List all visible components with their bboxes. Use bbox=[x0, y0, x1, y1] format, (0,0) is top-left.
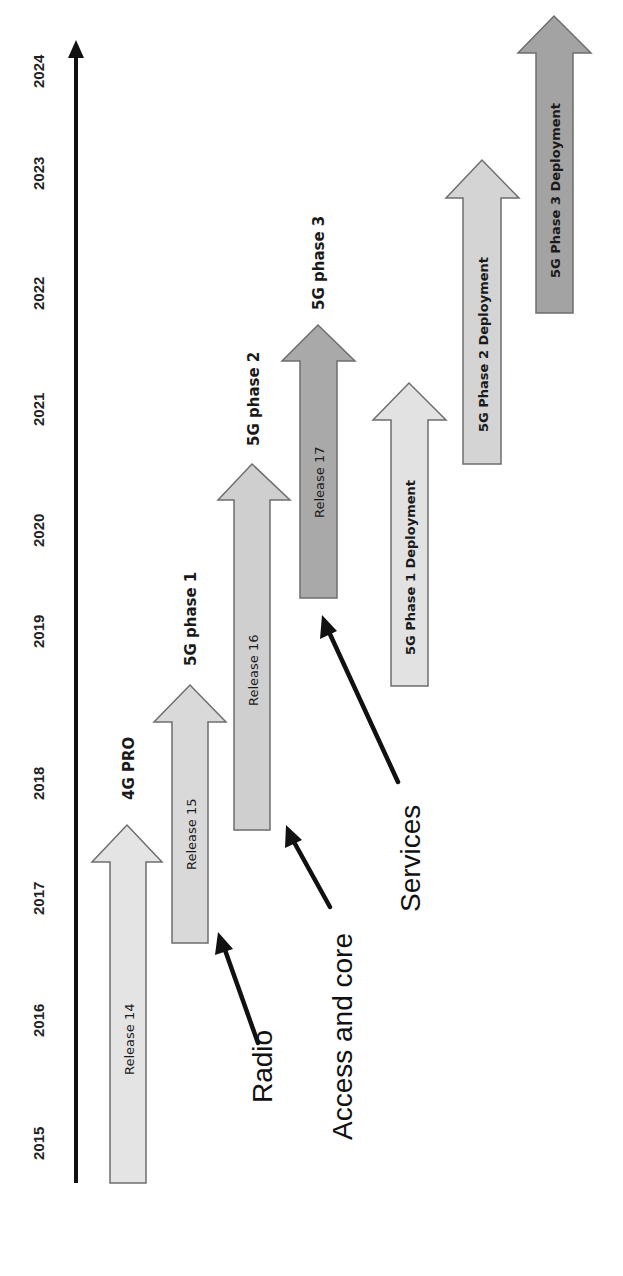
deployment-phase-3-label: 5G Phase 3 Deployment bbox=[548, 103, 563, 278]
year-label: 2021 bbox=[30, 393, 47, 426]
deployment-phase-2-label: 5G Phase 2 Deployment bbox=[476, 257, 491, 432]
release-14-label: Release 14 bbox=[122, 1004, 137, 1075]
callout-access-core-label: Access and core bbox=[327, 933, 358, 1140]
release-16-arrow: Release 16 5G phase 2 bbox=[218, 352, 290, 830]
timeline-diagram: 2015 2016 2017 2018 2019 2020 2021 2022 … bbox=[0, 0, 623, 1276]
release-17-label: Release 17 bbox=[312, 447, 327, 518]
phase-label-5g-phase-1: 5G phase 1 bbox=[182, 572, 200, 666]
year-label: 2022 bbox=[30, 277, 47, 310]
services-pointer-line bbox=[329, 632, 398, 782]
axis-arrowhead-icon bbox=[68, 40, 84, 58]
radio-pointer-arrowhead-icon bbox=[215, 932, 233, 955]
release-16-label: Release 16 bbox=[246, 635, 261, 706]
year-label: 2015 bbox=[30, 1127, 47, 1160]
release-15-arrow: Release 15 5G phase 1 bbox=[154, 572, 226, 943]
deployment-phase-2-arrow: 5G Phase 2 Deployment bbox=[446, 160, 519, 464]
radio-pointer-line bbox=[225, 950, 258, 1043]
phase-label-5g-phase-2: 5G phase 2 bbox=[245, 352, 263, 446]
release-15-label: Release 15 bbox=[184, 799, 199, 870]
release-14-arrow: Release 14 4G PRO bbox=[92, 737, 162, 1183]
year-label: 2020 bbox=[30, 514, 47, 547]
phase-label-4g-pro: 4G PRO bbox=[120, 737, 138, 800]
deployment-phase-3-arrow: 5G Phase 3 Deployment bbox=[518, 16, 591, 313]
year-label: 2019 bbox=[30, 615, 47, 648]
callout-radio: Radio bbox=[215, 932, 278, 1103]
year-labels: 2015 2016 2017 2018 2019 2020 2021 2022 … bbox=[30, 54, 47, 1160]
year-label: 2024 bbox=[30, 54, 47, 88]
time-axis bbox=[68, 40, 84, 1183]
phase-label-5g-phase-3: 5G phase 3 bbox=[310, 216, 328, 310]
callout-radio-label: Radio bbox=[247, 1030, 278, 1103]
year-label: 2018 bbox=[30, 767, 47, 800]
deployment-phase-1-label: 5G Phase 1 Deployment bbox=[403, 480, 418, 655]
callout-services-label: Services bbox=[395, 805, 426, 912]
year-label: 2023 bbox=[30, 157, 47, 190]
year-label: 2017 bbox=[30, 882, 47, 915]
deployment-phase-1-arrow: 5G Phase 1 Deployment bbox=[373, 383, 446, 686]
year-label: 2016 bbox=[30, 1004, 47, 1037]
callout-access-core: Access and core bbox=[285, 825, 358, 1140]
release-17-arrow: Release 17 5G phase 3 bbox=[282, 216, 355, 598]
access-pointer-line bbox=[294, 842, 330, 907]
